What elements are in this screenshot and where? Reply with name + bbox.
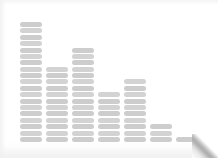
bar-3 [72,48,94,142]
bar-segment [46,73,68,78]
bar-segment [98,105,120,110]
bar-segment [98,124,120,129]
bar-segment [72,111,94,116]
bar-segment [46,131,68,136]
bar-segment [46,137,68,142]
bar-1 [20,22,42,142]
bar-segment [124,137,146,142]
chart-card [0,0,218,158]
bar-segment [20,28,42,33]
bar-segment [20,105,42,110]
bar-segment [72,79,94,84]
bar-segment [72,67,94,72]
bar-segment [72,137,94,142]
bar-segment [72,48,94,53]
bar-segment [20,131,42,136]
bar-segment [46,67,68,72]
bar-segment [72,73,94,78]
bar-segment [98,99,120,104]
bar-segment [124,79,146,84]
page-curl-shadow [192,134,218,158]
bar-segment [150,124,172,129]
bar-segment [46,124,68,129]
bar-segment [124,92,146,97]
bar-segment [72,54,94,59]
bar-segment [46,79,68,84]
bar-segment [20,67,42,72]
bar-segment [20,86,42,91]
bar-2 [46,67,68,142]
bar-segment [20,60,42,65]
bar-segment [72,99,94,104]
bar-segment [20,118,42,123]
bar-segment [72,86,94,91]
bar-segment [124,99,146,104]
bar-segment [46,105,68,110]
bar-segment [72,118,94,123]
bar-segment [20,22,42,27]
bar-segment [20,99,42,104]
bar-6 [150,124,172,142]
bar-segment [20,54,42,59]
bar-segment [98,131,120,136]
bar-4 [98,92,120,142]
bar-segment [46,92,68,97]
bar-5 [124,79,146,142]
bar-segment [150,137,172,142]
bar-segment [20,124,42,129]
bar-segment [124,124,146,129]
bar-segment [150,131,172,136]
bar-segment [46,99,68,104]
bar-segment [46,118,68,123]
bar-chart [0,0,218,158]
bar-segment [98,118,120,123]
bar-segment [72,124,94,129]
bar-segment [72,92,94,97]
bar-segment [20,35,42,40]
bar-segment [124,86,146,91]
bar-segment [72,60,94,65]
bar-segment [72,131,94,136]
bar-segment [20,48,42,53]
bar-segment [46,111,68,116]
bar-segment [46,86,68,91]
bar-segment [124,118,146,123]
bar-segment [72,105,94,110]
bar-segment [20,73,42,78]
bar-segment [98,137,120,142]
bar-segment [20,137,42,142]
bar-segment [20,41,42,46]
bar-segment [124,131,146,136]
bar-segment [98,92,120,97]
bar-segment [124,105,146,110]
bar-segment [20,111,42,116]
bar-segment [20,79,42,84]
bar-segment [124,111,146,116]
bar-segment [20,92,42,97]
bar-segment [98,111,120,116]
